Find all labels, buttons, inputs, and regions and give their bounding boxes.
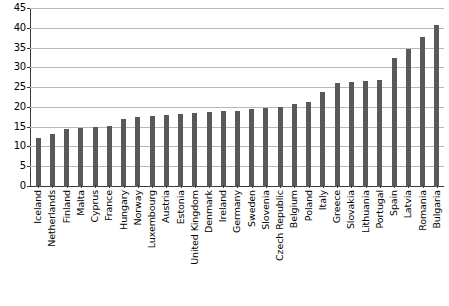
y-axis-tick-label: 15 bbox=[0, 122, 26, 132]
bar bbox=[64, 129, 69, 187]
y-axis-tick-label: 25 bbox=[0, 82, 26, 92]
x-axis-tick-label: Malta bbox=[76, 190, 86, 216]
bar bbox=[278, 107, 283, 187]
x-axis-tick-label: Estonia bbox=[176, 190, 186, 224]
bar bbox=[178, 114, 183, 187]
bar bbox=[349, 82, 354, 187]
x-axis-tick-label: Iceland bbox=[33, 190, 43, 224]
bar bbox=[50, 134, 55, 187]
bar bbox=[121, 119, 126, 187]
x-axis-tick bbox=[366, 185, 367, 188]
x-axis-label-slot: Latvia bbox=[401, 188, 415, 306]
x-axis-tick-label: Italy bbox=[318, 190, 328, 210]
x-axis-tick-label: Latvia bbox=[404, 190, 414, 218]
x-axis-tick bbox=[380, 185, 381, 188]
x-axis-tick-label: Greece bbox=[332, 190, 342, 223]
x-axis-label-slot: Finland bbox=[59, 188, 73, 306]
x-axis-tick bbox=[323, 185, 324, 188]
x-axis-tick-label: Ireland bbox=[218, 190, 228, 222]
bar-series bbox=[31, 8, 444, 187]
x-axis-tick bbox=[138, 185, 139, 188]
x-axis-tick bbox=[223, 185, 224, 188]
y-axis-tick-label: 5 bbox=[0, 161, 26, 171]
x-axis-tick-label: Norway bbox=[133, 190, 143, 225]
x-axis-label-slot: Italy bbox=[316, 188, 330, 306]
bar bbox=[36, 138, 41, 187]
x-axis-tick-label: Luxembourg bbox=[147, 190, 157, 248]
x-axis-tick-label: Cyprus bbox=[90, 190, 100, 223]
x-axis-tick-label: Slovakia bbox=[347, 190, 357, 229]
x-axis-tick bbox=[152, 185, 153, 188]
x-axis-tick bbox=[67, 185, 68, 188]
x-axis-tick-label: Finland bbox=[62, 190, 72, 223]
y-axis-tick-label: 30 bbox=[0, 62, 26, 72]
bar-chart: 051015202530354045 IcelandNetherlandsFin… bbox=[0, 0, 449, 306]
x-axis-label-slot: Hungary bbox=[116, 188, 130, 306]
x-axis-tick-label: Netherlands bbox=[48, 190, 58, 247]
y-axis-tick-label: 45 bbox=[0, 3, 26, 13]
x-axis-tick bbox=[252, 185, 253, 188]
bar bbox=[377, 80, 382, 187]
bar bbox=[263, 108, 268, 187]
bar bbox=[192, 113, 197, 187]
x-axis-label-slot: Romania bbox=[416, 188, 430, 306]
x-axis-tick-label: Denmark bbox=[204, 190, 214, 233]
x-axis-tick-label: Hungary bbox=[119, 190, 129, 230]
x-axis-tick bbox=[95, 185, 96, 188]
bar bbox=[249, 109, 254, 187]
x-axis-label-slot: Ireland bbox=[216, 188, 230, 306]
x-axis-tick-label: France bbox=[105, 190, 115, 221]
x-axis-label-slot: Malta bbox=[74, 188, 88, 306]
x-axis-label-slot: Cyprus bbox=[88, 188, 102, 306]
x-axis-label-slot: Lithuania bbox=[359, 188, 373, 306]
x-axis-tick bbox=[266, 185, 267, 188]
x-axis-label-slot: Germany bbox=[230, 188, 244, 306]
bar bbox=[164, 115, 169, 187]
x-axis-tick bbox=[351, 185, 352, 188]
bar bbox=[292, 104, 297, 187]
x-axis-label-slot: Slovenia bbox=[259, 188, 273, 306]
x-axis-tick-label: Lithuania bbox=[361, 190, 371, 233]
x-axis-tick bbox=[280, 185, 281, 188]
x-axis-label-slot: Iceland bbox=[31, 188, 45, 306]
y-axis-tick-label: 10 bbox=[0, 141, 26, 151]
x-axis-label-slot: Denmark bbox=[202, 188, 216, 306]
x-axis-tick-label: Portugal bbox=[375, 190, 385, 229]
x-axis-label-slot: France bbox=[102, 188, 116, 306]
bar bbox=[434, 25, 439, 187]
x-axis-tick-label: Poland bbox=[304, 190, 314, 221]
x-axis-tick-label: Spain bbox=[389, 190, 399, 216]
x-axis-tick bbox=[437, 185, 438, 188]
bar bbox=[335, 83, 340, 187]
x-axis-labels: IcelandNetherlandsFinlandMaltaCyprusFran… bbox=[31, 188, 444, 306]
x-axis-tick-label: Czech Republic bbox=[275, 190, 285, 261]
bar bbox=[135, 117, 140, 187]
bar bbox=[392, 58, 397, 187]
x-axis-label-slot: Czech Republic bbox=[273, 188, 287, 306]
x-axis-tick bbox=[209, 185, 210, 188]
y-axis-tick-label: 40 bbox=[0, 23, 26, 33]
x-axis-tick-label: Austria bbox=[162, 190, 172, 223]
x-axis-tick bbox=[294, 185, 295, 188]
x-axis-tick bbox=[337, 185, 338, 188]
bar bbox=[78, 128, 83, 187]
x-axis-label-slot: Spain bbox=[387, 188, 401, 306]
x-axis-tick bbox=[181, 185, 182, 188]
y-axis-labels: 051015202530354045 bbox=[0, 0, 26, 306]
x-axis-label-slot: Poland bbox=[302, 188, 316, 306]
x-axis-label-slot: Portugal bbox=[373, 188, 387, 306]
x-axis-tick-label: Sweden bbox=[247, 190, 257, 227]
x-axis-label-slot: Belgium bbox=[287, 188, 301, 306]
x-axis-label-slot: Slovakia bbox=[344, 188, 358, 306]
bar bbox=[235, 111, 240, 187]
x-axis-tick-label: Belgium bbox=[290, 190, 300, 228]
x-axis-tick bbox=[237, 185, 238, 188]
bar bbox=[320, 92, 325, 187]
x-axis-label-slot: Bulgaria bbox=[430, 188, 444, 306]
x-axis-tick-label: Bulgaria bbox=[432, 190, 442, 229]
x-axis-label-slot: Luxembourg bbox=[145, 188, 159, 306]
x-axis-tick bbox=[166, 185, 167, 188]
x-axis-label-slot: Netherlands bbox=[45, 188, 59, 306]
x-axis-tick-label: Germany bbox=[233, 190, 243, 233]
x-axis-tick bbox=[195, 185, 196, 188]
